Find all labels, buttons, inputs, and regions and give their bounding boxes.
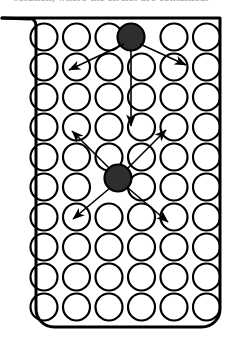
beaker-diagram	[0, 6, 242, 341]
highlighted-particle-upper	[118, 24, 145, 51]
pouring-spout-icon	[2, 18, 30, 19]
figure-root: solution, where the circles are containe…	[0, 0, 242, 341]
caption-text: solution, where the circles are containe…	[14, 0, 209, 3]
